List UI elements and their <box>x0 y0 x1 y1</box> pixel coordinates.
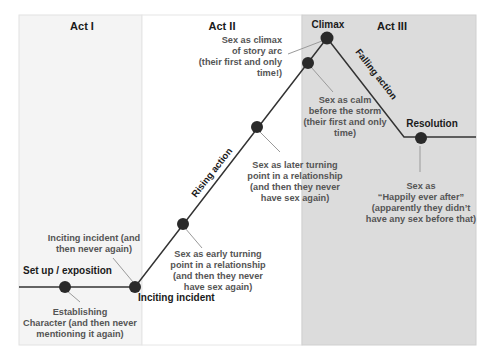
svg-text:Sex as early turning: Sex as early turning <box>174 249 261 259</box>
act-3-title: Act III <box>377 20 407 32</box>
svg-text:have sex again): have sex again) <box>184 282 252 292</box>
act-1-title: Act I <box>70 20 94 32</box>
svg-text:before the storm: before the storm <box>309 106 382 116</box>
stage-resolution-label: Resolution <box>406 118 458 129</box>
stage-climax-label: Climax <box>312 19 345 30</box>
svg-text:Inciting incident (and: Inciting incident (and <box>48 233 140 243</box>
svg-text:(and then they never: (and then they never <box>173 271 263 281</box>
svg-text:point in a relationship: point in a relationship <box>170 260 266 270</box>
svg-text:have any sex before that): have any sex before that) <box>366 214 476 224</box>
dot-calm <box>302 57 314 69</box>
annotation-later-turning: Sex as later turning point in a relation… <box>247 160 343 203</box>
svg-text:(apparently they didn’t: (apparently they didn’t <box>372 203 471 213</box>
svg-text:Establishing: Establishing <box>53 307 108 317</box>
act-2-title: Act II <box>209 20 236 32</box>
stage-setup-label: Set up / exposition <box>23 265 112 276</box>
svg-text:time!): time!) <box>257 68 282 78</box>
svg-text:Sex as calm: Sex as calm <box>319 95 372 105</box>
act-1-panel <box>19 15 142 345</box>
svg-text:have sex again): have sex again) <box>261 193 329 203</box>
svg-text:then never again): then never again) <box>56 244 132 254</box>
svg-text:Character (and then never: Character (and then never <box>23 318 137 328</box>
stage-inciting-label: Inciting incident <box>138 292 215 303</box>
dot-later-turning <box>251 121 263 133</box>
annotation-early-turning: Sex as early turning point in a relation… <box>170 249 266 292</box>
story-arc-diagram: Act I Act II Act III Set up / exposition… <box>0 0 496 362</box>
svg-text:Sex as later turning: Sex as later turning <box>252 160 337 170</box>
svg-text:point in a relationship: point in a relationship <box>247 171 343 181</box>
annotation-inciting: Inciting incident (and then never again) <box>48 233 140 254</box>
svg-text:(their first and only: (their first and only <box>303 117 387 127</box>
svg-text:(and then they never: (and then they never <box>250 182 340 192</box>
dot-climax <box>321 32 334 45</box>
svg-text:mentioning it again): mentioning it again) <box>36 329 123 339</box>
dot-resolution <box>415 132 427 144</box>
svg-text:of story arc: of story arc <box>232 46 282 56</box>
svg-text:time): time) <box>334 128 356 138</box>
dot-establishing <box>59 281 71 293</box>
svg-text:(their first and only: (their first and only <box>199 57 283 67</box>
svg-text:Sex as climax: Sex as climax <box>222 35 283 45</box>
svg-text:“Happily ever after”: “Happily ever after” <box>378 192 464 202</box>
dot-early-turning <box>177 218 189 230</box>
svg-text:Sex as: Sex as <box>406 181 435 191</box>
